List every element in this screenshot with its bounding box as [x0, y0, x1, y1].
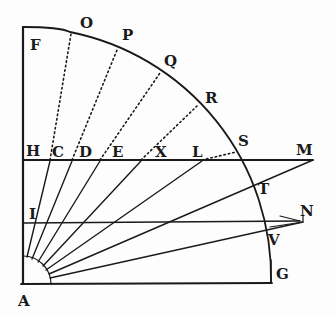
point-label-I: I	[29, 205, 36, 223]
radial-A-N	[50, 222, 303, 278]
point-label-Q: Q	[164, 52, 177, 70]
point-label-V: V	[267, 231, 280, 249]
point-label-G: G	[276, 265, 289, 283]
point-label-F: F	[30, 36, 41, 54]
point-label-C: C	[52, 143, 64, 161]
dotted-X-R	[141, 106, 197, 160]
point-label-D: D	[79, 143, 92, 161]
point-label-M: M	[296, 141, 313, 159]
point-label-E: E	[112, 143, 123, 161]
radial-A-L	[46, 161, 202, 270]
point-label-L: L	[192, 143, 203, 161]
line-IN	[23, 221, 300, 223]
point-label-N: N	[300, 202, 314, 220]
point-label-X: X	[155, 143, 167, 161]
point-label-T: T	[258, 180, 270, 198]
point-label-H: H	[26, 142, 40, 160]
point-label-R: R	[205, 89, 218, 107]
point-label-S: S	[238, 132, 249, 150]
line-AG	[21, 283, 272, 284]
point-label-A: A	[17, 292, 30, 310]
radial-A-E	[38, 161, 100, 262]
quarter-circle-diagram: AFOPQRSTVGHCDEXLMIN	[0, 0, 335, 315]
dotted-L-S	[202, 152, 236, 160]
diagram-canvas: AFOPQRSTVGHCDEXLMIN	[0, 0, 335, 315]
point-label-O: O	[80, 14, 93, 32]
dotted-E-Q	[100, 73, 160, 160]
dotted-C-O	[50, 34, 71, 160]
point-label-P: P	[122, 26, 133, 44]
